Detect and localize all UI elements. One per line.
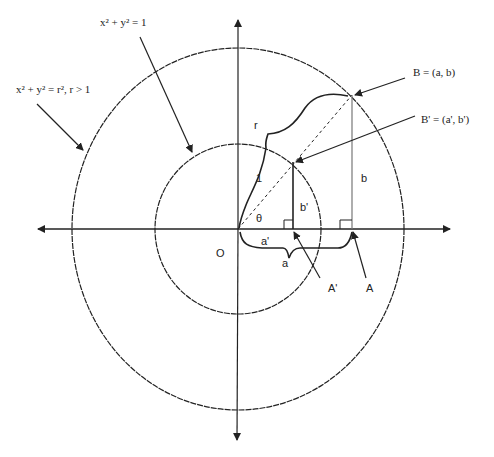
label-inner-circle-eq: x² + y² = 1 — [100, 16, 147, 28]
circle-diagram: x² + y² = 1 x² + y² = r², r > 1 B = (a, … — [0, 0, 494, 457]
label-point-B: B = (a, b) — [413, 66, 456, 79]
y-axis — [237, 20, 238, 440]
label-angle-theta: θ — [256, 212, 262, 224]
label-outer-circle-eq: x² + y² = r², r > 1 — [16, 83, 90, 95]
label-a-prime: a' — [261, 235, 269, 247]
label-origin: O — [216, 247, 225, 259]
arrow-to-A — [353, 232, 366, 278]
arrow-to-B — [355, 78, 405, 95]
radius-line-dashed — [238, 95, 352, 229]
label-radius-r: r — [254, 119, 258, 131]
right-angle-mark-a — [340, 220, 352, 229]
arrow-to-A-prime — [294, 232, 320, 278]
arrow-to-inner-circle — [140, 37, 192, 152]
arrow-to-outer-circle — [37, 104, 83, 150]
arrow-to-B-prime — [296, 116, 415, 162]
label-point-A-prime: A' — [328, 282, 337, 294]
label-b-prime: b' — [300, 201, 308, 213]
label-point-B-prime: B' = (a', b') — [421, 113, 470, 126]
label-radius-1: 1 — [256, 172, 262, 184]
label-point-A: A — [366, 282, 374, 294]
label-a: a — [282, 257, 289, 269]
label-b: b — [361, 172, 367, 184]
right-angle-mark-a-prime — [284, 220, 293, 229]
